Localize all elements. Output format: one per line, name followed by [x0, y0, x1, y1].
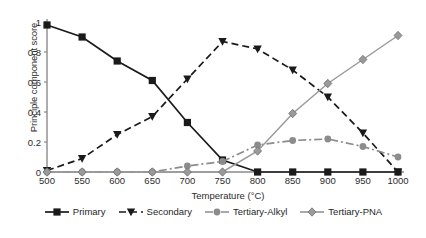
data-point-diamond [113, 168, 121, 176]
data-point-diamond [219, 168, 227, 176]
data-point-triangle [253, 45, 261, 53]
x-axis-title: Temperature (°C) [0, 190, 426, 201]
plot-area [0, 0, 426, 238]
chart-figure: Principle component score 00.20.40.60.81… [0, 0, 426, 238]
legend-item-secondary[interactable]: Secondary [118, 206, 192, 218]
data-point-square [79, 33, 86, 40]
data-point-square [289, 168, 296, 175]
data-point-circle [219, 158, 226, 165]
legend-label: Primary [73, 207, 106, 217]
legend-label: Tertiary-PNA [328, 207, 382, 217]
data-point-triangle [113, 131, 121, 139]
data-point-square [184, 119, 191, 126]
chart-legend: PrimarySecondaryTertiary-AlkylTertiary-P… [0, 206, 426, 218]
data-point-square [43, 21, 50, 28]
series-line [47, 139, 398, 172]
data-point-diamond [308, 208, 316, 216]
data-point-diamond [183, 168, 191, 176]
legend-item-tertiary-alkyl[interactable]: Tertiary-Alkyl [204, 206, 287, 218]
data-point-square [53, 208, 60, 215]
legend-item-tertiary-pna[interactable]: Tertiary-PNA [299, 206, 382, 218]
legend-swatch-icon [118, 206, 144, 218]
data-point-diamond [148, 168, 156, 176]
data-point-circle [289, 137, 296, 144]
data-point-diamond [359, 55, 367, 63]
data-point-diamond [394, 31, 402, 39]
series-tertiary-pna [43, 31, 402, 176]
data-point-circle [324, 136, 331, 143]
data-point-square [324, 168, 331, 175]
series-line [47, 42, 398, 173]
series-line [47, 36, 398, 173]
series-line [47, 25, 398, 172]
data-point-square [254, 168, 261, 175]
legend-label: Tertiary-Alkyl [233, 207, 287, 217]
data-point-diamond [78, 168, 86, 176]
data-point-circle [360, 143, 367, 150]
data-point-square [114, 57, 121, 64]
legend-item-primary[interactable]: Primary [44, 206, 106, 218]
legend-label: Secondary [147, 207, 192, 217]
legend-swatch-icon [44, 206, 70, 218]
legend-swatch-icon [204, 206, 230, 218]
series-secondary [43, 38, 402, 176]
data-point-circle [214, 209, 221, 216]
data-point-square [149, 77, 156, 84]
data-point-circle [395, 154, 402, 161]
data-point-triangle [148, 113, 156, 121]
data-point-square [359, 168, 366, 175]
legend-swatch-icon [299, 206, 325, 218]
